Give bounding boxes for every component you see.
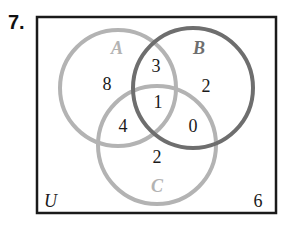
set-a-label: A <box>110 38 123 58</box>
set-b-label: B <box>192 38 205 58</box>
region-b-and-c: 0 <box>189 116 198 136</box>
universe-label: U <box>44 191 58 211</box>
outside-count: 6 <box>254 191 263 211</box>
region-a-and-c: 4 <box>119 116 128 136</box>
region-c-only: 2 <box>153 147 162 167</box>
region-a-only: 8 <box>103 74 112 94</box>
region-a-and-b: 3 <box>152 56 161 76</box>
region-b-only: 2 <box>202 76 211 96</box>
venn-diagram: A B C 8 2 2 3 4 0 1 U 6 <box>0 0 292 235</box>
region-a-and-b-and-c: 1 <box>154 92 163 112</box>
set-c-label: C <box>151 176 164 196</box>
